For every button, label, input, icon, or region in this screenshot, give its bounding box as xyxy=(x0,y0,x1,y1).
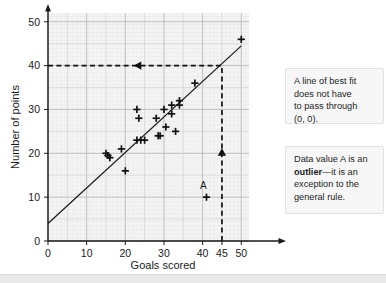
scatter-chart: A 0102030404550 01020304050 Goals scored… xyxy=(0,0,290,274)
callout-outlier-line2: outlier—it is an xyxy=(294,166,376,179)
callout-outlier-line1: Data value A is an xyxy=(294,153,376,166)
y-tick-label: 50 xyxy=(28,16,40,28)
y-tick-label: 0 xyxy=(34,235,40,247)
chart-canvas: A 0102030404550 01020304050 Goals scored… xyxy=(0,0,290,274)
chart-annotations: A xyxy=(200,180,207,191)
x-axis-title: Goals scored xyxy=(131,259,196,271)
outlier-label: A xyxy=(200,180,207,191)
callout-line-of-best-fit: A line of best fit does not have to pass… xyxy=(285,68,384,124)
x-tick-label: 10 xyxy=(81,247,93,259)
callout-bestfit-line3: to pass through xyxy=(294,100,376,113)
x-tick-label: 50 xyxy=(235,247,247,259)
y-axis-tick-labels: 01020304050 xyxy=(28,16,40,247)
x-tick-label: 30 xyxy=(158,247,170,259)
callout-bestfit-line4: (0, 0). xyxy=(294,113,376,126)
y-axis-title: Number of points xyxy=(9,85,21,169)
minor-gridlines xyxy=(48,13,249,241)
y-tick-label: 20 xyxy=(28,147,40,159)
callout-bestfit-line1: A line of best fit xyxy=(294,75,376,88)
x-tick-label: 0 xyxy=(45,247,51,259)
x-axis-tick-labels: 0102030404550 xyxy=(45,247,247,259)
x-tick-label: 40 xyxy=(197,247,209,259)
y-tick-label: 40 xyxy=(28,59,40,71)
callout-outlier-term: outlier xyxy=(294,167,322,177)
callout-bestfit-line2: does not have xyxy=(294,88,376,101)
y-tick-label: 10 xyxy=(28,191,40,203)
x-tick-label: 45 xyxy=(216,247,228,259)
callout-outlier-line4: general rule. xyxy=(294,191,376,204)
y-tick-label: 30 xyxy=(28,103,40,115)
x-tick-label: 20 xyxy=(119,247,131,259)
bottom-strip xyxy=(0,274,386,283)
callout-outlier: Data value A is an outlier—it is an exce… xyxy=(285,146,384,214)
callout-outlier-line3: exception to the xyxy=(294,178,376,191)
callout-outlier-line2-rest: —it is an xyxy=(322,167,358,177)
